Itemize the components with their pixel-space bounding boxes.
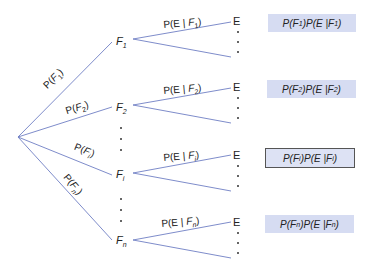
product-box-fn: P(Fn)P(E | Fn) <box>265 215 354 233</box>
leaf-e-2: E <box>233 82 240 93</box>
ellipsis-dot <box>237 117 239 119</box>
ellipsis-dot <box>237 165 239 167</box>
ellipsis-dot <box>120 138 122 140</box>
ellipsis-dot <box>237 232 239 234</box>
ellipsis-dot <box>237 31 239 33</box>
ellipsis-dot <box>237 51 239 53</box>
ellipsis-dot <box>120 198 122 200</box>
product-box-f1: P(F1)P(E | F1) <box>268 14 356 32</box>
product-box-fi: P(Fi)P(E | Fi) <box>265 148 355 168</box>
product-box-f2: P(F2)P(E | F2) <box>267 80 356 98</box>
ellipsis-dot <box>120 209 122 211</box>
ellipsis-dot <box>237 41 239 43</box>
leaf-e-1: E <box>233 16 240 27</box>
ellipsis-dot <box>120 149 122 151</box>
ellipsis-dot <box>237 107 239 109</box>
ellipsis-dot <box>237 175 239 177</box>
node-fi: Fi <box>116 169 124 182</box>
ellipsis-dot <box>120 220 122 222</box>
node-fn: Fn <box>116 235 127 248</box>
ellipsis-dot <box>237 97 239 99</box>
leaf-e-n: E <box>233 217 240 228</box>
ellipsis-dot <box>237 242 239 244</box>
node-f1: F1 <box>116 36 127 49</box>
ellipsis-dot <box>237 185 239 187</box>
ellipsis-dot <box>120 127 122 129</box>
leaf-e-i: E <box>233 150 240 161</box>
node-f2: F2 <box>116 102 127 115</box>
ellipsis-dot <box>237 252 239 254</box>
